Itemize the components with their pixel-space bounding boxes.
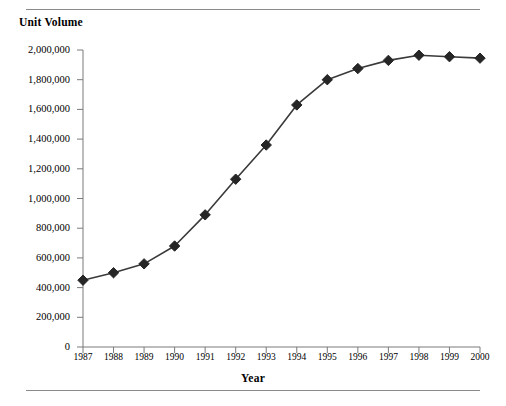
- x-axis-tick-label: 2000: [460, 352, 500, 362]
- x-axis-tick-labels: 1987198819891990199119921993199419951996…: [0, 0, 506, 406]
- chart-figure: Unit Volume 0200,000400,000600,000800,00…: [0, 0, 506, 406]
- x-axis-title: Year: [0, 372, 506, 384]
